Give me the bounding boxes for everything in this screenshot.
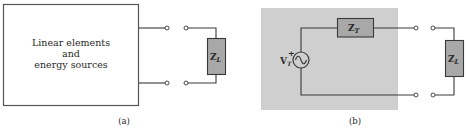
load-subscript-b: L xyxy=(454,58,460,66)
block-text-line-3: energy sources xyxy=(34,59,108,70)
terminal-icon xyxy=(414,93,418,97)
load-wire-bottom-b xyxy=(435,77,454,95)
svg-text:energy sources: energy sources xyxy=(34,59,108,70)
terminal-icon xyxy=(184,81,188,85)
load-wire-top-a xyxy=(188,28,216,38)
source-polarity: + xyxy=(288,48,295,58)
svg-text:+: + xyxy=(288,48,295,58)
svg-text:(a): (a) xyxy=(118,116,130,126)
svg-text:(b): (b) xyxy=(349,116,361,126)
load-subscript-a: L xyxy=(216,56,222,64)
svg-text:Linear elements: Linear elements xyxy=(32,37,110,48)
terminal-icon xyxy=(165,81,169,85)
terminal-icon xyxy=(431,93,435,97)
panel-a: Linear elements and energy sources ZL (a… xyxy=(4,5,226,127)
terminal-icon xyxy=(431,26,435,30)
load-wire-bottom-a xyxy=(188,74,216,83)
source-subscript: T xyxy=(287,60,292,67)
terminal-icon xyxy=(414,26,418,30)
block-text-line-2: and xyxy=(62,48,80,59)
caption-b: (b) xyxy=(349,116,361,126)
block-text-line-1: Linear elements xyxy=(32,37,110,48)
load-wire-top-b xyxy=(435,28,454,40)
caption-a: (a) xyxy=(118,116,130,126)
svg-text:and: and xyxy=(62,48,80,59)
terminal-icon xyxy=(184,26,188,30)
panel-b: VT + ZT ZL (b) xyxy=(261,8,464,126)
terminal-icon xyxy=(165,26,169,30)
